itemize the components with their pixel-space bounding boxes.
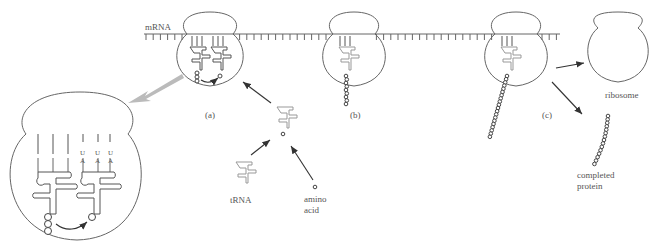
ribosome-stage-a <box>177 12 243 86</box>
free-trna <box>236 162 256 183</box>
mrna-label: mRNA <box>145 22 172 32</box>
trna-label: tRNA <box>230 195 252 205</box>
stage-b-label: (b) <box>350 110 361 120</box>
svg-text:A: A <box>108 157 113 165</box>
protein-synthesis-diagram: mRNA (a) (b) (c) <box>0 0 666 242</box>
svg-text:U: U <box>95 149 100 157</box>
amino-acid-label-2: acid <box>304 205 319 215</box>
free-ribosome <box>588 12 648 82</box>
trna-charging-arrow <box>251 140 270 155</box>
anticodon-codon-labels: U U U A A A <box>80 149 113 165</box>
trna-pair-a <box>190 36 231 83</box>
charged-trna <box>277 107 297 136</box>
stage-a-label: (a) <box>205 110 215 120</box>
svg-text:U: U <box>80 149 85 157</box>
peptide-transfer-arrow <box>56 222 87 229</box>
amino-acid-label-1: amino <box>304 194 327 204</box>
mrna-strand <box>144 34 560 40</box>
svg-text:A: A <box>95 157 100 165</box>
amino-acid-arrow <box>291 146 313 180</box>
amino-acid-molecule <box>313 185 317 189</box>
enlarged-ribosome-view <box>10 92 141 240</box>
protein-release-arrow <box>552 82 582 114</box>
ribosome-stage-b <box>323 12 386 106</box>
stage-c-label: (c) <box>542 110 552 120</box>
zoom-in-arrow <box>128 74 184 103</box>
completed-protein-label-2: protein <box>577 181 603 191</box>
completed-protein-chain <box>593 114 610 166</box>
trna-to-ribosome-arrow <box>243 82 271 103</box>
ribosome-label: ribosome <box>605 90 639 100</box>
svg-text:A: A <box>80 157 85 165</box>
ribosome-stage-c <box>485 12 548 139</box>
ribosome-release-arrow <box>556 63 584 68</box>
svg-text:U: U <box>108 149 113 157</box>
completed-protein-label-1: completed <box>577 170 615 180</box>
